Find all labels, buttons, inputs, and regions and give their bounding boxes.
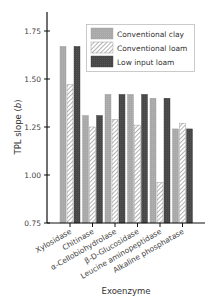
bar-chart: 0.751.001.251.501.75XylosidaseChitinaseα… (0, 0, 218, 306)
bar (150, 98, 156, 223)
bar (128, 94, 134, 223)
bar-group (173, 123, 193, 223)
bar (83, 115, 89, 223)
bar (187, 129, 193, 223)
bar (105, 94, 111, 223)
bar (157, 183, 163, 223)
legend: Conventional clayConventional loamLow in… (87, 25, 195, 72)
bar-group (150, 98, 170, 223)
x-axis-title: Exoenzyme (102, 286, 151, 296)
bar-group (83, 115, 103, 223)
legend-label: Conventional loam (117, 44, 187, 53)
bar (173, 129, 179, 223)
bar (164, 98, 170, 223)
y-axis-title: TPL slope (b) (13, 99, 23, 155)
bar (97, 115, 103, 223)
bar-group (128, 94, 148, 223)
y-tick-label: 1.50 (24, 75, 41, 84)
bar (60, 46, 66, 223)
legend-label: Low input loam (117, 58, 174, 67)
y-tick-label: 0.75 (24, 219, 41, 228)
bar-group (60, 46, 80, 223)
bar (135, 125, 141, 223)
legend-swatch (91, 56, 113, 67)
legend-swatch (91, 42, 113, 53)
bar (119, 94, 125, 223)
legend-swatch (91, 28, 113, 39)
bar (142, 94, 148, 223)
bar (67, 85, 73, 223)
bar (74, 46, 80, 223)
y-tick-label: 1.25 (24, 123, 41, 132)
bar (90, 127, 96, 223)
legend-item: Conventional loam (91, 42, 187, 53)
bar-group (105, 94, 125, 223)
legend-label: Conventional clay (117, 30, 185, 39)
legend-item: Conventional clay (91, 28, 185, 39)
bars-group (60, 46, 193, 223)
y-tick-label: 1.75 (24, 27, 41, 36)
bar (180, 123, 186, 223)
y-tick-label: 1.00 (24, 171, 41, 180)
bar (112, 119, 118, 223)
legend-item: Low input loam (91, 56, 174, 67)
